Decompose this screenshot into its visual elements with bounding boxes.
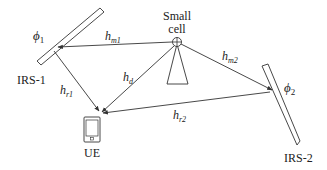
hm2-label: hm2 [222, 49, 238, 65]
irs2-panel [262, 64, 300, 145]
irs1-phase-label: ϕ1 [33, 28, 44, 45]
irs2-phase-label: ϕ2 [284, 80, 295, 97]
hr2-label: hr2 [173, 108, 186, 124]
small-cell-label-1: Small [163, 9, 192, 23]
small-cell-label-2: cell [168, 22, 186, 36]
ue-phone-icon [84, 117, 100, 142]
irs2-label: IRS-2 [284, 151, 313, 165]
irs1-panel [37, 8, 104, 65]
small-cell-tower-icon [167, 38, 188, 85]
irs1-label: IRS-1 [17, 73, 46, 87]
ue-label: UE [84, 146, 100, 160]
link-hr2 [103, 92, 270, 113]
hm1-label: hm1 [105, 29, 121, 45]
irs-system-diagram: Small cell ϕ1 IRS-1 ϕ2 IRS-2 UE hm1 hm2 … [0, 0, 327, 170]
hd-label: hd [123, 70, 134, 86]
link-hr1 [54, 51, 99, 111]
link-hd [102, 46, 174, 112]
hr1-label: hr1 [60, 83, 73, 99]
